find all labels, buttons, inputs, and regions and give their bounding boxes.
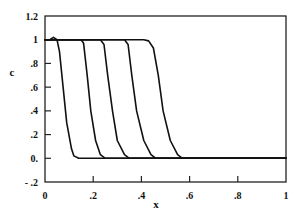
series-line-profile-2 [45, 40, 286, 159]
y-axis-label: c [10, 66, 15, 78]
x-tick-label: .2 [89, 190, 97, 201]
y-axis-ticks: 1.21.8.6.4.20.- .2 [25, 11, 51, 188]
series-line-profile-3 [45, 40, 286, 159]
series-line-profile-4 [45, 40, 286, 159]
data-series [45, 37, 286, 158]
x-axis-ticks: 0.2.4.6.81 [43, 176, 289, 201]
y-tick-label: 0. [31, 153, 39, 164]
x-tick-label: .8 [234, 190, 242, 201]
x-tick-label: .6 [186, 190, 194, 201]
x-tick-label: .4 [138, 190, 146, 201]
y-tick-label: .4 [31, 105, 39, 116]
y-tick-label: 1 [33, 34, 38, 45]
y-tick-label: 1.2 [26, 11, 39, 22]
y-tick-label: .8 [31, 58, 39, 69]
series-line-profile-5 [45, 40, 286, 159]
chart: 0.2.4.6.81 1.21.8.6.4.20.- .2 x c [0, 0, 296, 218]
x-tick-label: 0 [43, 190, 48, 201]
series-line-profile-1 [45, 37, 286, 158]
x-tick-label: 1 [284, 190, 289, 201]
y-tick-label: .2 [31, 129, 39, 140]
y-tick-label: .6 [31, 82, 39, 93]
y-tick-label: - .2 [25, 177, 38, 188]
x-axis-label: x [153, 198, 159, 210]
